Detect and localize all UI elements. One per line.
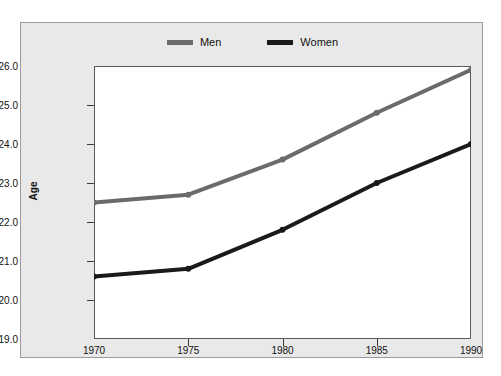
x-tick-mark bbox=[377, 339, 378, 346]
data-point bbox=[280, 227, 286, 233]
y-tick-label: 22.0 bbox=[0, 217, 18, 228]
data-point bbox=[185, 192, 191, 198]
data-point bbox=[374, 180, 380, 186]
y-tick-label: 26.0 bbox=[0, 61, 18, 72]
chart-figure: Men Women Age 19.020.021.022.023.024.025… bbox=[20, 22, 483, 358]
y-tick-mark bbox=[87, 261, 94, 262]
x-tick-label: 1970 bbox=[83, 345, 105, 356]
x-tick-mark bbox=[283, 339, 284, 346]
y-tick-mark bbox=[87, 105, 94, 106]
y-tick-label: 25.0 bbox=[0, 100, 18, 111]
y-tick-label: 20.0 bbox=[0, 295, 18, 306]
y-tick-mark bbox=[87, 144, 94, 145]
x-tick-label: 1980 bbox=[271, 345, 293, 356]
data-point bbox=[185, 266, 191, 272]
y-tick-label: 23.0 bbox=[0, 178, 18, 189]
series-line-men bbox=[94, 70, 471, 203]
y-tick-label: 24.0 bbox=[0, 139, 18, 150]
x-tick-label: 1985 bbox=[366, 345, 388, 356]
chart-lines bbox=[94, 66, 471, 339]
y-tick-mark bbox=[87, 300, 94, 301]
y-axis-label: Age bbox=[28, 182, 39, 201]
x-tick-mark bbox=[188, 339, 189, 346]
y-tick-label: 21.0 bbox=[0, 256, 18, 267]
y-tick-label: 19.0 bbox=[0, 334, 18, 345]
data-point bbox=[374, 110, 380, 116]
x-tick-label: 1975 bbox=[177, 345, 199, 356]
y-tick-mark bbox=[87, 183, 94, 184]
y-tick-mark bbox=[87, 222, 94, 223]
x-tick-label: 1990 bbox=[460, 345, 482, 356]
series-line-women bbox=[94, 144, 471, 277]
data-point bbox=[280, 157, 286, 163]
plot-wrapper: Age 19.020.021.022.023.024.025.026.01970… bbox=[21, 23, 484, 359]
